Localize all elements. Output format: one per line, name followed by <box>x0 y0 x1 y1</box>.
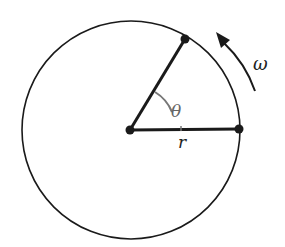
reference-radius-line <box>130 129 239 130</box>
angle-label: θ <box>171 103 181 120</box>
angle-arc <box>155 92 172 112</box>
radius-label: r <box>178 134 186 151</box>
center-point <box>126 126 135 135</box>
rotation-arrow-arc <box>224 43 255 91</box>
diagram-canvas <box>0 0 285 247</box>
angular-velocity-label: ω <box>253 55 268 73</box>
rotated-point <box>181 35 190 44</box>
reference-point <box>235 125 244 134</box>
circle-diagram: θ r ω <box>0 0 285 247</box>
